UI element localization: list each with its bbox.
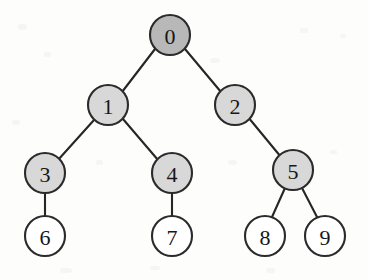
node-label-3: 3	[40, 162, 51, 187]
tree-node-8[interactable]: 8	[245, 216, 285, 256]
tree-edge-n2-n5	[248, 117, 281, 157]
node-label-7: 7	[167, 225, 178, 250]
tree-edge-n0-n2	[185, 49, 221, 92]
tree-node-5[interactable]: 5	[273, 150, 313, 190]
binary-tree-diagram: 0123456789	[0, 0, 369, 280]
tree-edge-n1-n3	[58, 120, 94, 160]
tree-node-7[interactable]: 7	[152, 216, 192, 256]
node-label-1: 1	[103, 94, 114, 119]
node-label-6: 6	[40, 225, 51, 250]
tree-node-1[interactable]: 1	[88, 85, 128, 125]
tree-node-4[interactable]: 4	[152, 153, 192, 193]
tree-node-2[interactable]: 2	[215, 85, 255, 125]
node-label-8: 8	[260, 225, 271, 250]
tree-node-9[interactable]: 9	[305, 216, 345, 256]
tree-edge-n5-n8	[272, 188, 285, 217]
node-layer: 0123456789	[25, 15, 345, 256]
tree-edge-n0-n1	[122, 49, 155, 92]
tree-edge-n1-n4	[123, 119, 158, 160]
tree-node-6[interactable]: 6	[25, 216, 65, 256]
node-label-0: 0	[165, 24, 176, 49]
tree-node-3[interactable]: 3	[25, 153, 65, 193]
node-label-2: 2	[230, 94, 241, 119]
tree-edge-n5-n9	[302, 188, 317, 217]
node-label-9: 9	[320, 225, 331, 250]
node-label-4: 4	[167, 162, 178, 187]
tree-node-0[interactable]: 0	[150, 15, 190, 55]
node-label-5: 5	[288, 159, 299, 184]
